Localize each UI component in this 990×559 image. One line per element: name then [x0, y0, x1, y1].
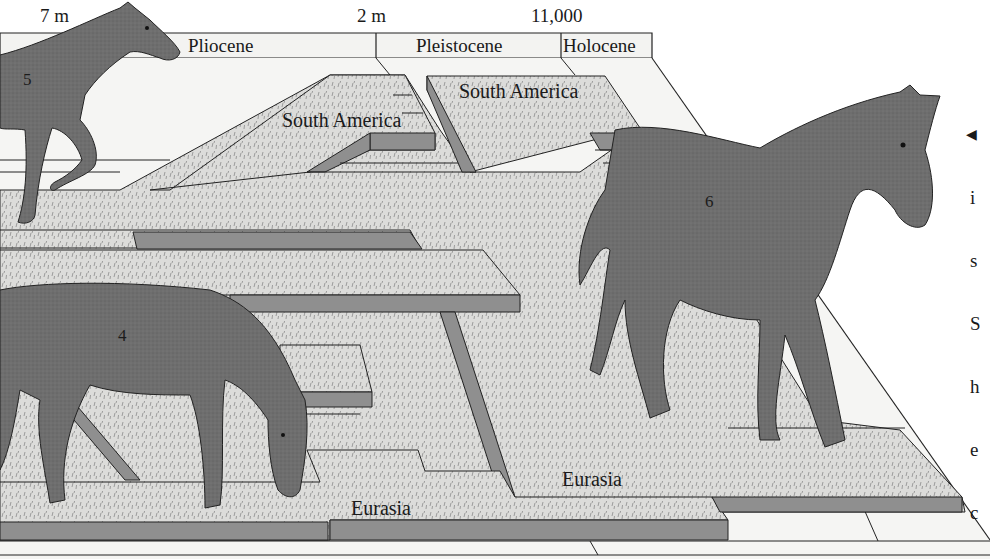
diagram-canvas: 7 m 2 m 11,000 Pliocene Pleistocene Holo…: [0, 0, 990, 559]
horse-number-5: 5: [23, 70, 32, 89]
caption-line: e: [970, 439, 984, 460]
caption-arrow-icon: ◀: [966, 124, 984, 145]
label-eurasia-right: Eurasia: [562, 468, 622, 490]
time-marker-2m: 2 m: [357, 5, 386, 26]
time-marker-11000: 11,000: [531, 5, 583, 26]
label-south-america-right: South America: [459, 80, 579, 102]
horse-number-4: 4: [118, 326, 127, 345]
horse-number-6: 6: [705, 192, 714, 211]
caption-line: i: [970, 187, 984, 208]
side-caption: ◀ i s S h e c N 1 2 3 4 5 6: [970, 82, 984, 559]
epoch-pleistocene: Pleistocene: [416, 35, 503, 56]
time-marker-7m: 7 m: [40, 5, 69, 26]
caption-line: h: [970, 376, 984, 397]
epoch-pliocene: Pliocene: [188, 35, 253, 56]
label-south-america-left: South America: [282, 109, 402, 131]
caption-line: c: [970, 502, 984, 523]
caption-line: s: [970, 250, 984, 271]
epoch-holocene: Holocene: [563, 35, 636, 56]
label-eurasia-left: Eurasia: [351, 497, 411, 519]
caption-line: S: [970, 313, 984, 334]
horse-evolution-diagram: 7 m 2 m 11,000 Pliocene Pleistocene Holo…: [0, 0, 990, 559]
